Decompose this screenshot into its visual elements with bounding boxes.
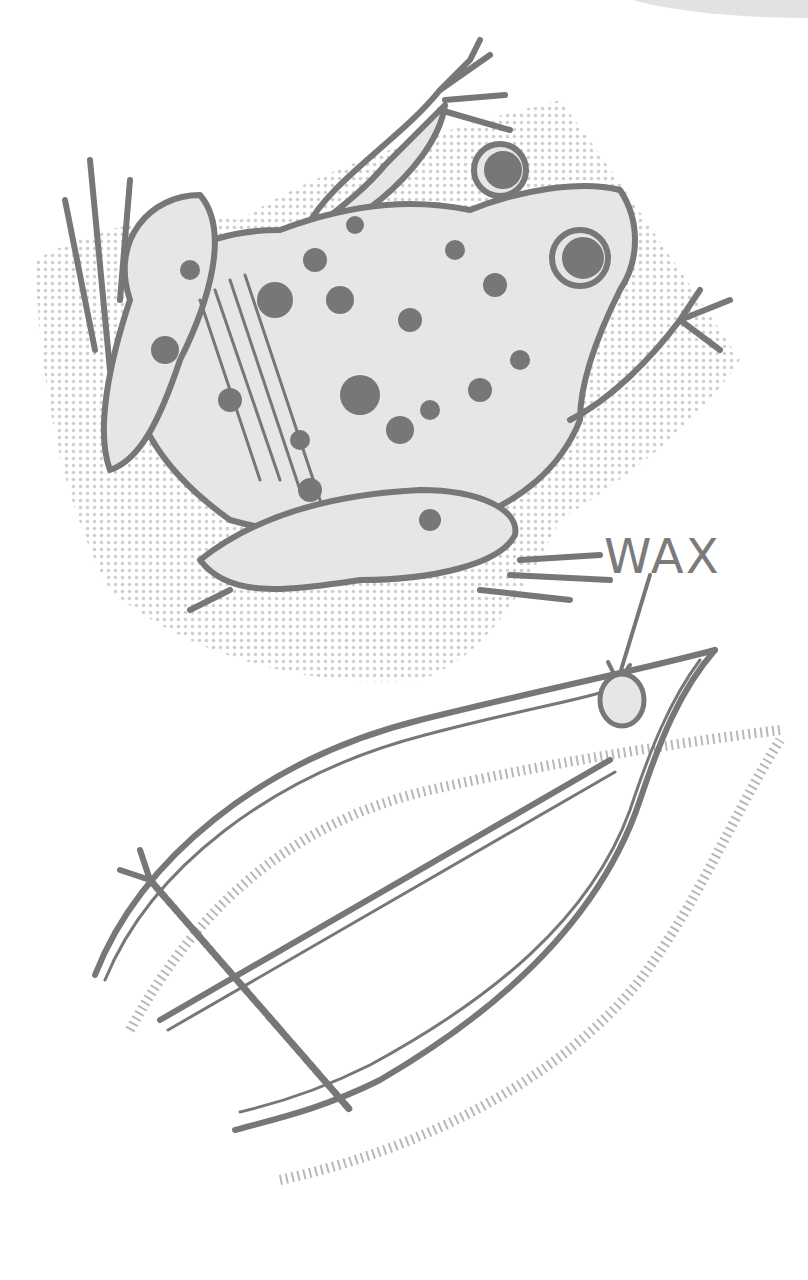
wax-label: WAX bbox=[604, 528, 721, 584]
illustration bbox=[0, 0, 808, 1280]
wax-blob bbox=[600, 674, 644, 726]
wishbone-shadow-hatching bbox=[130, 730, 780, 1180]
